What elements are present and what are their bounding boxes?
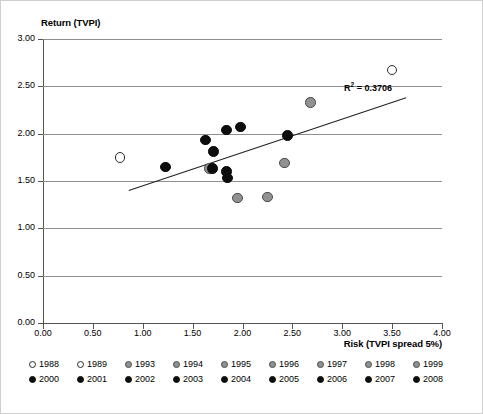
legend-marker-icon <box>29 361 36 368</box>
legend-marker-icon <box>365 361 372 368</box>
legend-item-label: 2000 <box>39 374 59 384</box>
legend-item-label: 1995 <box>231 359 251 369</box>
legend-row-late-years: 200020012002200320042005200620072008 <box>29 374 461 384</box>
data-point <box>235 122 245 132</box>
data-point <box>115 152 125 162</box>
legend-item-1998[interactable]: 1998 <box>365 359 413 369</box>
data-point <box>208 146 218 156</box>
legend-item-label: 2001 <box>87 374 107 384</box>
legend-marker-icon <box>77 376 84 383</box>
y-axis-tick <box>38 276 43 277</box>
y-axis-tick <box>38 228 43 229</box>
legend-item-2004[interactable]: 2004 <box>221 374 269 384</box>
legend-marker-icon <box>269 376 276 383</box>
legend-item-label: 1998 <box>375 359 395 369</box>
x-axis-tick-label: 3.50 <box>372 328 412 338</box>
legend-marker-icon <box>365 376 372 383</box>
legend-item-2000[interactable]: 2000 <box>29 374 77 384</box>
y-axis-tick-label: 3.00 <box>1 33 35 43</box>
legend-item-2006[interactable]: 2006 <box>317 374 365 384</box>
legend-marker-icon <box>125 376 132 383</box>
data-point <box>262 192 272 202</box>
x-axis-title: Risk (TVPI spread 5%) <box>344 338 442 349</box>
legend-row-early-years: 198819891993199419951996199719981999 <box>29 359 461 369</box>
y-axis-tick-label: 2.00 <box>1 128 35 138</box>
x-axis-tick-label: 1.50 <box>173 328 213 338</box>
data-point <box>222 173 232 183</box>
legend-item-label: 1996 <box>279 359 299 369</box>
legend-item-2005[interactable]: 2005 <box>269 374 317 384</box>
y-axis-tick <box>38 181 43 182</box>
x-axis-tick-label: 4.00 <box>422 328 462 338</box>
r-squared-value: = 0.3706 <box>354 83 392 93</box>
y-axis-title: Return (TVPI) <box>41 17 100 28</box>
data-point <box>305 97 315 107</box>
y-axis-tick-label: 1.00 <box>1 222 35 232</box>
x-axis-tick-label: 3.00 <box>322 328 362 338</box>
r-squared-annotation: R2 = 0.3706 <box>344 81 392 93</box>
y-axis-tick-label: 2.50 <box>1 80 35 90</box>
legend-marker-icon <box>125 361 132 368</box>
legend-item-label: 2006 <box>327 374 347 384</box>
legend-item-1999[interactable]: 1999 <box>413 359 461 369</box>
data-point <box>232 193 242 203</box>
legend-item-label: 1989 <box>87 359 107 369</box>
data-point <box>279 158 289 168</box>
legend-item-label: 1993 <box>135 359 155 369</box>
legend-item-2008[interactable]: 2008 <box>413 374 461 384</box>
x-axis-tick-label: 0.00 <box>23 328 63 338</box>
y-axis-tick <box>38 134 43 135</box>
legend-marker-icon <box>317 361 324 368</box>
x-axis-tick-label: 1.00 <box>123 328 163 338</box>
legend-item-label: 2005 <box>279 374 299 384</box>
legend-marker-icon <box>317 376 324 383</box>
legend-item-1988[interactable]: 1988 <box>29 359 77 369</box>
data-point <box>282 130 292 140</box>
legend-item-label: 1994 <box>183 359 203 369</box>
legend-item-2003[interactable]: 2003 <box>173 374 221 384</box>
legend-marker-icon <box>173 361 180 368</box>
legend-item-2001[interactable]: 2001 <box>77 374 125 384</box>
legend-item-label: 1997 <box>327 359 347 369</box>
legend-marker-icon <box>413 361 420 368</box>
legend-item-label: 2008 <box>423 374 443 384</box>
y-axis-tick-label: 1.50 <box>1 175 35 185</box>
data-point <box>160 162 170 172</box>
scatter-chart-figure: Return (TVPI) Risk (TVPI spread 5%) 0.00… <box>0 0 483 414</box>
legend-marker-icon <box>173 376 180 383</box>
legend-item-label: 2003 <box>183 374 203 384</box>
legend-item-2007[interactable]: 2007 <box>365 374 413 384</box>
y-axis-tick <box>38 86 43 87</box>
legend-marker-icon <box>29 376 36 383</box>
x-axis-tick-label: 2.00 <box>223 328 263 338</box>
x-axis-tick-label: 0.50 <box>73 328 113 338</box>
legend: 198819891993199419951996199719981999 200… <box>29 359 461 389</box>
legend-item-1993[interactable]: 1993 <box>125 359 173 369</box>
y-axis-tick-label: 0.00 <box>1 317 35 327</box>
legend-marker-icon <box>77 361 84 368</box>
legend-item-1989[interactable]: 1989 <box>77 359 125 369</box>
legend-marker-icon <box>413 376 420 383</box>
legend-item-label: 2004 <box>231 374 251 384</box>
legend-item-1997[interactable]: 1997 <box>317 359 365 369</box>
legend-item-label: 2002 <box>135 374 155 384</box>
legend-marker-icon <box>221 361 228 368</box>
y-axis-tick-label: 0.50 <box>1 270 35 280</box>
legend-item-label: 1999 <box>423 359 443 369</box>
data-point <box>207 163 217 173</box>
legend-item-label: 1988 <box>39 359 59 369</box>
legend-item-1996[interactable]: 1996 <box>269 359 317 369</box>
legend-item-1995[interactable]: 1995 <box>221 359 269 369</box>
data-point <box>221 125 231 135</box>
legend-item-2002[interactable]: 2002 <box>125 374 173 384</box>
x-axis-tick-label: 2.50 <box>272 328 312 338</box>
legend-marker-icon <box>269 361 276 368</box>
legend-item-1994[interactable]: 1994 <box>173 359 221 369</box>
legend-marker-icon <box>221 376 228 383</box>
y-axis-tick <box>38 39 43 40</box>
legend-item-label: 2007 <box>375 374 395 384</box>
